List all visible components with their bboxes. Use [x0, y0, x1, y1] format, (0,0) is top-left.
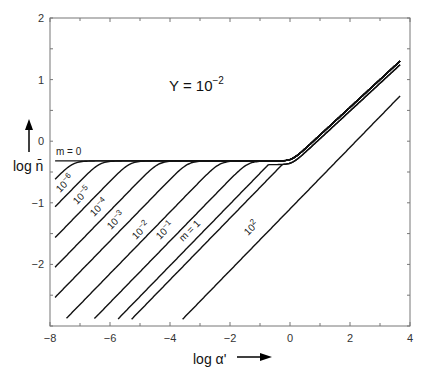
curve-label: 102: [240, 217, 261, 238]
x-axis-title: log α': [193, 351, 272, 367]
curve-0: [55, 61, 400, 161]
curve-5: [55, 61, 400, 297]
axes-frame: −8−6−4−2024−2−1012: [31, 12, 413, 344]
x-axis-label: log α': [193, 351, 226, 367]
y-tick-label: 0: [38, 135, 44, 147]
curve-9: [132, 65, 401, 320]
curve-4: [55, 61, 400, 267]
x-tick-label: −2: [224, 332, 237, 344]
curve-label: m = 1: [177, 217, 203, 243]
curves: [55, 61, 400, 319]
x-tick-label: −6: [104, 332, 117, 344]
x-tick-label: 0: [287, 332, 293, 344]
curve-7: [94, 62, 399, 319]
chart: −8−6−4−2024−2−1012 m = 010−610−510−410−3…: [0, 0, 426, 377]
curve-label: m = 0: [56, 146, 82, 157]
x-tick-label: 2: [347, 332, 353, 344]
up-arrow-icon: [25, 119, 33, 130]
x-tick-label: 4: [407, 332, 413, 344]
y-tick-label: −2: [31, 258, 44, 270]
curve-label: 10−6: [52, 171, 76, 195]
y-tick-label: 1: [38, 74, 44, 86]
right-arrow-icon: [260, 353, 272, 361]
curve-10: [183, 96, 401, 319]
y-tick-label: 2: [38, 12, 44, 24]
curve-6: [67, 62, 400, 319]
y-tick-label: −1: [31, 197, 44, 209]
y-axis-label: log n̄: [13, 158, 43, 174]
chart-title: Y = 10−2: [169, 75, 224, 94]
curve-label: 10−2: [128, 218, 152, 242]
x-tick-label: −8: [44, 332, 57, 344]
x-tick-label: −4: [164, 332, 177, 344]
